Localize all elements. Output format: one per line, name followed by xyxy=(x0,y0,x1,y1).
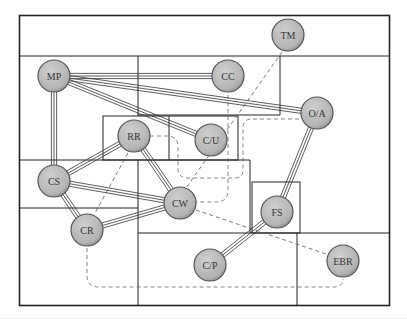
node-tm: TM xyxy=(272,19,304,51)
bottom-rule xyxy=(0,318,407,319)
node-mp: MP xyxy=(38,60,70,92)
node-label: CW xyxy=(172,198,189,209)
node-label: CS xyxy=(48,176,60,187)
node-ebr: EBR xyxy=(327,245,359,277)
strong-link-mp-oa xyxy=(54,79,317,116)
node-label: MP xyxy=(47,71,62,82)
node-cw: CW xyxy=(164,187,196,219)
node-cr: CR xyxy=(71,214,103,246)
node-cs: CS xyxy=(38,165,70,197)
strong-link-cs-cw xyxy=(54,181,180,203)
node-label: FS xyxy=(271,207,282,218)
node-cc: CC xyxy=(212,60,244,92)
node-fs: FS xyxy=(261,196,293,228)
strong-link-cs-cw xyxy=(54,184,180,206)
node-label: EBR xyxy=(333,256,353,267)
node-label: CC xyxy=(221,71,235,82)
node-cp: C/P xyxy=(194,249,226,281)
node-rr: RR xyxy=(118,120,150,152)
node-label: CR xyxy=(80,225,94,236)
node-label: O/A xyxy=(308,108,326,119)
node-label: TM xyxy=(281,30,296,41)
zone-diagram: TMMPCCO/ARRC/UCSCWFSCRC/PEBR xyxy=(0,0,407,324)
nodes: TMMPCCO/ARRC/UCSCWFSCRC/PEBR xyxy=(38,19,359,281)
node-label: RR xyxy=(127,131,141,142)
node-label: C/U xyxy=(203,135,220,146)
node-oa: O/A xyxy=(301,97,333,129)
node-label: C/P xyxy=(202,260,217,271)
strong-link-cs-cw xyxy=(54,178,180,200)
node-cu: C/U xyxy=(195,124,227,156)
